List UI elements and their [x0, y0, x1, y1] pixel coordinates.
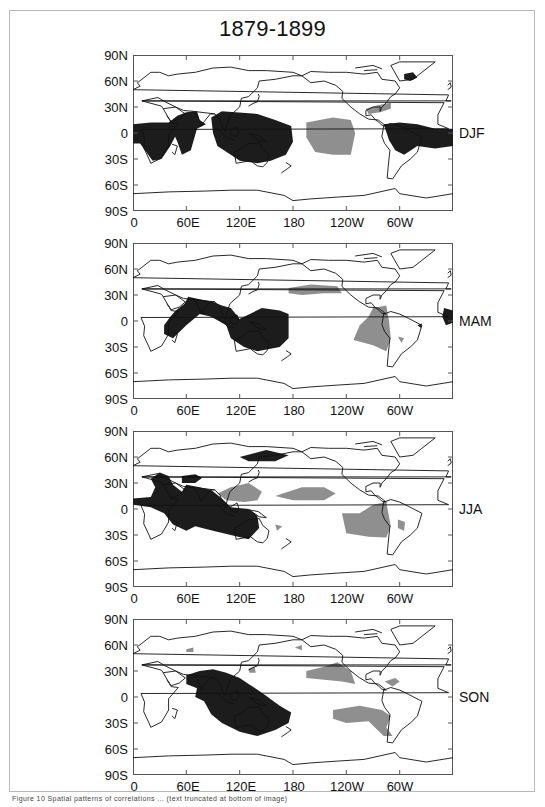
season-label: JJA [459, 501, 482, 517]
x-tick-label: 180 [283, 404, 305, 417]
season-label: SON [459, 689, 489, 705]
y-tick-label: 30N [88, 665, 128, 678]
x-tick-label: 120E [226, 216, 256, 229]
map-panel-jja: 90N 60N 30N 0 30S 60S 90S 0 60E 120E 180… [0, 431, 545, 619]
season-label: MAM [459, 313, 492, 329]
y-tick-label: 60S [88, 367, 128, 380]
x-tick-label: 120E [226, 592, 256, 605]
world-map [133, 431, 453, 587]
x-tick-label: 120W [330, 404, 364, 417]
y-tick-label: 60N [88, 75, 128, 88]
world-map [133, 55, 453, 211]
x-tick-label: 60E [176, 592, 199, 605]
figure-title: 1879-1899 [0, 16, 545, 42]
map-panel-mam: 90N 60N 30N 0 30S 60S 90S 0 60E 120E 180… [0, 243, 545, 431]
x-tick-label: 60E [176, 216, 199, 229]
x-tick-label: 180 [283, 592, 305, 605]
x-tick-label: 60W [387, 216, 414, 229]
x-tick-label: 0 [130, 780, 137, 793]
x-tick-label: 0 [130, 216, 137, 229]
y-tick-label: 0 [88, 315, 128, 328]
y-tick-label: 30N [88, 101, 128, 114]
world-map [133, 619, 453, 775]
map-panel-djf: 90N 60N 30N 0 30S 60S 90S 0 60E 120E 180… [0, 55, 545, 243]
x-tick-label: 0 [130, 592, 137, 605]
y-tick-label: 90N [88, 613, 128, 626]
y-tick-label: 60N [88, 639, 128, 652]
y-tick-label: 90S [88, 205, 128, 218]
x-tick-label: 120W [330, 592, 364, 605]
y-tick-label: 60S [88, 179, 128, 192]
x-tick-label: 60E [176, 780, 199, 793]
gray-anomaly-region [306, 117, 355, 154]
x-tick-label: 120W [330, 780, 364, 793]
y-tick-label: 60S [88, 743, 128, 756]
x-tick-label: 60E [176, 404, 199, 417]
y-tick-label: 0 [88, 127, 128, 140]
y-tick-label: 0 [88, 691, 128, 704]
y-tick-label: 30S [88, 153, 128, 166]
x-tick-label: 120E [226, 780, 256, 793]
y-tick-label: 60N [88, 451, 128, 464]
x-tick-label: 180 [283, 216, 305, 229]
y-tick-label: 90S [88, 581, 128, 594]
figure-caption: Figure 10 Spatial patterns of correlatio… [12, 795, 288, 802]
y-tick-label: 60N [88, 263, 128, 276]
x-tick-label: 120W [330, 216, 364, 229]
y-tick-label: 30S [88, 717, 128, 730]
x-tick-label: 180 [283, 780, 305, 793]
world-map [133, 243, 453, 399]
season-label: DJF [459, 125, 485, 141]
y-tick-label: 30S [88, 341, 128, 354]
x-tick-label: 60W [387, 592, 414, 605]
y-tick-label: 60S [88, 555, 128, 568]
x-tick-label: 60W [387, 404, 414, 417]
y-tick-label: 90S [88, 769, 128, 782]
y-tick-label: 90N [88, 425, 128, 438]
y-tick-label: 90N [88, 237, 128, 250]
x-tick-label: 60W [387, 780, 414, 793]
y-tick-label: 90N [88, 49, 128, 62]
x-tick-label: 120E [226, 404, 256, 417]
y-tick-label: 90S [88, 393, 128, 406]
y-tick-label: 30S [88, 529, 128, 542]
y-tick-label: 0 [88, 503, 128, 516]
y-tick-label: 30N [88, 289, 128, 302]
y-tick-label: 30N [88, 477, 128, 490]
x-tick-label: 0 [130, 404, 137, 417]
map-panel-son: 90N 60N 30N 0 30S 60S 90S 0 60E 120E 180… [0, 619, 545, 807]
